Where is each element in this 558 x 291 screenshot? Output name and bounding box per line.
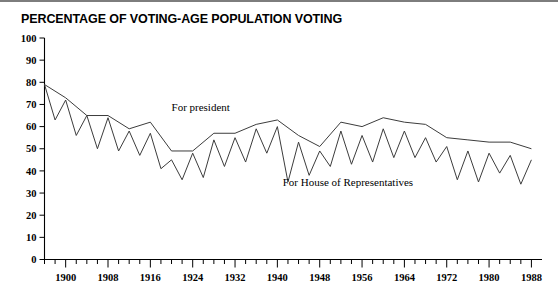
y-axis-tick-label: 0	[31, 254, 36, 265]
x-axis-tick-label: 1988	[521, 272, 542, 283]
y-axis-tick-label: 90	[26, 55, 37, 66]
x-axis-tick-label: 1964	[394, 272, 416, 283]
x-axis-tick-label: 1948	[309, 272, 330, 283]
x-axis-tick-label: 1916	[140, 272, 161, 283]
y-axis-tick-label: 20	[26, 210, 37, 221]
y-axis-tick-label: 100	[21, 33, 37, 44]
data-series-group	[45, 85, 532, 185]
y-axis-ticks: 0102030405060708090100	[21, 33, 45, 266]
y-axis-tick-label: 50	[26, 143, 37, 154]
y-axis-tick-label: 70	[26, 99, 37, 110]
x-axis-tick-label: 1972	[436, 272, 457, 283]
y-axis-tick-label: 40	[26, 166, 37, 177]
x-axis-tick-label: 1932	[225, 272, 246, 283]
chart-figure: PERCENTAGE OF VOTING-AGE POPULATION VOTI…	[0, 0, 558, 291]
series-line-president	[45, 85, 532, 151]
x-axis-tick-label: 1908	[98, 272, 119, 283]
series-label-house: For House of Representatives	[283, 176, 413, 188]
x-axis-tick-label: 1980	[479, 272, 500, 283]
y-axis-tick-label: 60	[26, 121, 37, 132]
y-axis-tick-label: 10	[26, 232, 37, 243]
series-label-president: For president	[172, 101, 230, 113]
y-axis-tick-label: 80	[26, 77, 37, 88]
axis-frame	[45, 38, 543, 260]
series-line-house	[45, 85, 532, 185]
y-axis-tick-label: 30	[26, 188, 37, 199]
x-axis-tick-label: 1924	[182, 272, 204, 283]
chart-plot-area: 0102030405060708090100 19001908191619241…	[0, 0, 558, 291]
x-axis-tick-label: 1956	[352, 272, 373, 283]
x-axis-ticks: 1900190819161924193219401948195619641972…	[45, 260, 542, 283]
x-axis-tick-label: 1900	[55, 272, 76, 283]
x-axis-tick-label: 1940	[267, 272, 288, 283]
axis-lines	[45, 38, 543, 260]
